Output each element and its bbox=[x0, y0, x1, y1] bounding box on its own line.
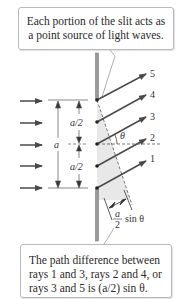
callout-path-difference: The path difference between rays 1 and 3… bbox=[20, 244, 172, 298]
callout-bottom-line-1: The path difference between bbox=[29, 253, 163, 267]
ray-label-1: 1 bbox=[150, 153, 155, 164]
ray-label-4: 4 bbox=[150, 89, 155, 100]
callout-bottom-leader bbox=[104, 228, 114, 244]
incident-arrows bbox=[20, 101, 42, 188]
slit-width-label: a bbox=[54, 139, 59, 150]
angle-arc bbox=[115, 135, 117, 144]
half-width-label-upper: a/2 bbox=[70, 117, 83, 128]
path-diff-sin-theta: sin θ bbox=[125, 213, 144, 224]
ray-label-3: 3 bbox=[150, 111, 155, 122]
ray-label-2: 2 bbox=[150, 132, 155, 143]
slit-wall-upper bbox=[96, 53, 99, 100]
slit-wall-lower bbox=[96, 188, 99, 241]
half-width-label-lower: a/2 bbox=[70, 161, 83, 172]
angle-label: θ bbox=[120, 130, 125, 141]
callout-bottom-line-2: rays 1 and 3, rays 2 and 4, or bbox=[29, 267, 163, 281]
callout-top-leader bbox=[102, 50, 115, 97]
path-diff-denominator: 2 bbox=[115, 219, 120, 230]
callout-bottom-line-3: rays 3 and 5 is (a/2) sin θ. bbox=[29, 281, 163, 295]
path-diff-numerator: a bbox=[115, 208, 120, 219]
ray-label-5: 5 bbox=[150, 68, 155, 79]
